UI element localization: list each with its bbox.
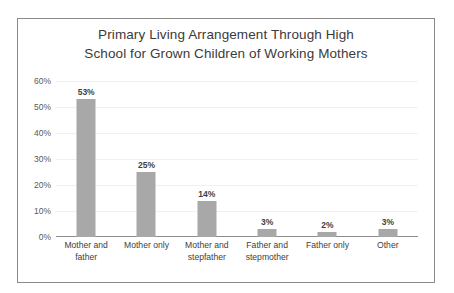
bar-mother-and-stepfather[interactable] (197, 201, 216, 237)
category-line: father (75, 252, 97, 262)
category-line: Mother and (64, 240, 107, 250)
category-label-father-only: Father only (297, 240, 357, 263)
ytick-label-50: 50% (34, 102, 51, 112)
category-line: Other (377, 240, 399, 250)
ytick-label-0: 0% (39, 232, 51, 242)
category-label-mother-and-father: Mother and father (56, 240, 116, 263)
bar-mother-and-father[interactable] (77, 99, 96, 237)
category-label-mother-only: Mother only (116, 240, 176, 263)
ytick-label-30: 30% (34, 154, 51, 164)
category-line: Father only (306, 240, 349, 250)
bar-slot-father-only: 2% (297, 81, 357, 237)
chart-title-line-1: Primary Living Arrangement Through High (18, 25, 434, 44)
bar-value-label-0: 53% (78, 87, 95, 97)
ytick-label-60: 60% (34, 76, 51, 86)
bar-slot-other: 3% (358, 81, 418, 237)
category-line: stepfather (188, 252, 226, 262)
bar-value-label-5: 3% (382, 217, 394, 227)
bar-father-and-stepmother[interactable] (258, 229, 277, 237)
bar-value-label-2: 14% (198, 189, 215, 199)
bar-slot-mother-only: 25% (116, 81, 176, 237)
bar-slot-mother-and-father: 53% (56, 81, 116, 237)
bar-slot-mother-and-stepfather: 14% (177, 81, 237, 237)
bar-mother-only[interactable] (137, 172, 156, 237)
category-line: stepmother (246, 252, 289, 262)
category-label-father-and-stepmother: Father and stepmother (237, 240, 297, 263)
plot-area: 60% 50% 40% 30% 20% 10% 0% 53% 25% 14% 3… (56, 81, 418, 237)
bar-value-label-4: 2% (321, 220, 333, 230)
category-line: Mother and (185, 240, 228, 250)
category-line: Father and (246, 240, 288, 250)
bar-value-label-3: 3% (261, 217, 273, 227)
bar-value-label-1: 25% (138, 160, 155, 170)
category-line: Mother only (124, 240, 169, 250)
bar-slot-father-and-stepmother: 3% (237, 81, 297, 237)
bar-father-only[interactable] (318, 232, 337, 237)
ytick-label-10: 10% (34, 206, 51, 216)
ytick-label-40: 40% (34, 128, 51, 138)
chart-title-line-2: School for Grown Children of Working Mot… (18, 44, 434, 63)
category-label-mother-and-stepfather: Mother and stepfather (177, 240, 237, 263)
bar-other[interactable] (378, 229, 397, 237)
chart-title: Primary Living Arrangement Through High … (18, 25, 434, 63)
bar-series: 53% 25% 14% 3% 2% 3% (56, 81, 418, 237)
x-axis-category-labels: Mother and father Mother only Mother and… (56, 240, 418, 263)
category-label-other: Other (358, 240, 418, 263)
ytick-label-20: 20% (34, 180, 51, 190)
chart-container: Primary Living Arrangement Through High … (17, 18, 435, 283)
